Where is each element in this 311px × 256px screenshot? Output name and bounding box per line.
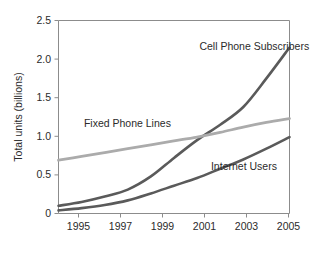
y-axis-title: Total units (billions) [12,72,24,161]
y-tick-labels: 2.5 2.0 1.5 1.0 0.5 0 [36,14,51,219]
x-tick-label-3: 2001 [193,220,217,232]
series-label-internet-users: Internet Users [211,160,277,172]
y-tick-label-4: 0.5 [36,168,51,180]
y-tick-label-0: 2.5 [36,14,51,26]
chart-canvas: 2.5 2.0 1.5 1.0 0.5 0 1995 1997 1999 200… [0,0,311,256]
y-tick-label-3: 1.0 [36,130,51,142]
y-tick-label-2: 1.5 [36,91,51,103]
series-annotations: Cell Phone SubscribersFixed Phone LinesI… [84,40,309,172]
y-axis-ticks [55,21,59,214]
y-tick-label-1: 2.0 [36,53,51,65]
line-chart: 2.5 2.0 1.5 1.0 0.5 0 1995 1997 1999 200… [0,0,311,256]
series-label-fixed-phone-lines: Fixed Phone Lines [84,117,171,129]
x-tick-labels: 1995 1997 1999 2001 2003 2005 [67,220,301,232]
x-tick-label-2: 1999 [151,220,175,232]
y-tick-label-5: 0 [45,207,51,219]
x-tick-label-4: 2003 [235,220,259,232]
x-tick-label-0: 1995 [67,220,91,232]
x-tick-label-5: 2005 [277,220,301,232]
series-label-cell-phone-subscribers: Cell Phone Subscribers [199,40,309,52]
x-axis-ticks [79,214,289,218]
x-tick-label-1: 1997 [109,220,133,232]
